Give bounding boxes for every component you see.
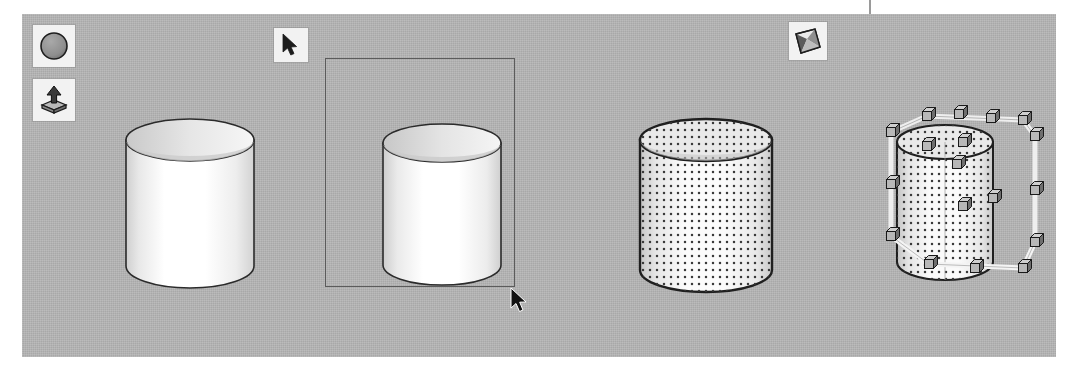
manipulator-handle[interactable] <box>987 110 1000 123</box>
manipulator-handle[interactable] <box>923 138 936 151</box>
manipulator-handle[interactable] <box>1019 260 1032 273</box>
arrow-pointer-icon <box>280 33 302 57</box>
extrude-arrow-icon <box>38 84 70 116</box>
deform-page-icon <box>793 26 823 56</box>
mouse-pointer-cursor <box>509 287 531 315</box>
manipulator-handle[interactable] <box>925 256 938 269</box>
manipulator-handle[interactable] <box>923 108 936 121</box>
extrude-tool-button[interactable] <box>33 79 75 121</box>
manipulator-handle[interactable] <box>955 106 968 119</box>
viewport-canvas[interactable] <box>22 14 1056 357</box>
select-tool-button[interactable] <box>274 28 308 62</box>
manipulator-handle[interactable] <box>953 156 966 169</box>
cylinder-with-manipulators[interactable] <box>867 102 1057 311</box>
filled-circle-icon <box>39 31 69 61</box>
manipulator-handle[interactable] <box>887 176 900 189</box>
manipulator-handle[interactable] <box>1031 234 1044 247</box>
manipulator-handle[interactable] <box>887 124 900 137</box>
deform-tool-button[interactable] <box>789 22 827 60</box>
manipulator-handle[interactable] <box>1031 128 1044 141</box>
screenshot-root <box>0 0 1078 374</box>
manipulator-handle[interactable] <box>1019 112 1032 125</box>
manipulator-handle[interactable] <box>959 134 972 147</box>
manipulator-handle[interactable] <box>1031 182 1044 195</box>
manipulator-handle[interactable] <box>989 190 1002 203</box>
manipulator-handle[interactable] <box>959 198 972 211</box>
manipulator-handle[interactable] <box>971 260 984 273</box>
cylinder-unselected[interactable] <box>120 114 260 303</box>
primitive-sphere-tool-button[interactable] <box>33 25 75 67</box>
manipulator-handle[interactable] <box>887 228 900 241</box>
cylinder-highlighted[interactable] <box>634 114 784 308</box>
cylinder-marquee-selected[interactable] <box>377 119 507 301</box>
